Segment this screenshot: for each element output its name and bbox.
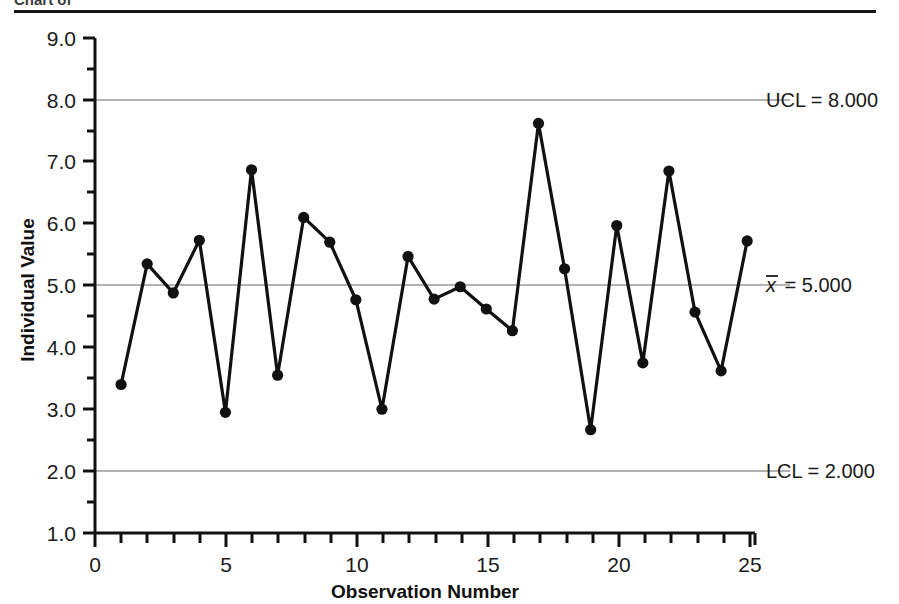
y-tick-label: 4.0	[47, 336, 76, 359]
data-point	[533, 118, 544, 129]
data-point	[611, 220, 622, 231]
data-point	[272, 370, 283, 381]
y-tick-label: 3.0	[47, 398, 76, 421]
data-point	[246, 164, 257, 175]
control-chart: Chart of	[0, 0, 899, 604]
y-tick-label: 2.0	[47, 460, 76, 483]
y-tick-labels: 9.0 8.0 7.0 6.0 5.0 4.0 3.0 2.0 1.0	[47, 27, 76, 545]
data-point	[637, 357, 648, 368]
center-line-label: x = 5.000	[765, 274, 852, 296]
y-tick-label: 1.0	[47, 522, 76, 545]
control-limit-lines	[95, 100, 790, 471]
limit-annotations: UCL = 8.000 x = 5.000 LCL = 2.000	[765, 89, 878, 482]
data-point	[376, 404, 387, 415]
x-tick-label: 20	[607, 553, 630, 576]
data-point	[324, 237, 335, 248]
x-tick-label: 0	[89, 553, 101, 576]
data-point	[663, 165, 674, 176]
data-point	[481, 303, 492, 314]
data-series-line	[121, 123, 747, 429]
ucl-label: UCL = 8.000	[766, 89, 878, 111]
data-point	[350, 294, 361, 305]
data-point	[455, 281, 466, 292]
y-tick-label: 9.0	[47, 27, 76, 50]
data-point	[220, 407, 231, 418]
data-point	[742, 235, 753, 246]
x-tick-label: 15	[476, 553, 499, 576]
data-point	[115, 379, 126, 390]
y-tick-label: 8.0	[47, 89, 76, 112]
xbar-symbol: x	[765, 274, 777, 296]
data-point	[142, 258, 153, 269]
data-point	[585, 424, 596, 435]
data-point	[168, 287, 179, 298]
chart-canvas: 9.0 8.0 7.0 6.0 5.0 4.0 3.0 2.0 1.0 Indi…	[0, 0, 899, 604]
x-tick-labels: 0 5 10 15 20 25	[89, 553, 762, 576]
y-tick-label: 5.0	[47, 274, 76, 297]
center-line-value: 5.000	[802, 274, 852, 296]
data-point	[689, 307, 700, 318]
y-axis-title: Individual Value	[17, 218, 38, 362]
data-series-markers	[115, 118, 752, 435]
y-tick-label: 7.0	[47, 150, 76, 173]
data-point	[298, 212, 309, 223]
y-axis	[83, 38, 95, 533]
x-tick-label: 25	[738, 553, 761, 576]
data-point	[715, 365, 726, 376]
data-point	[402, 251, 413, 262]
center-line-equation: =	[779, 274, 802, 296]
data-point	[194, 235, 205, 246]
data-point	[559, 263, 570, 274]
x-tick-label: 10	[345, 553, 368, 576]
x-axis-title: Observation Number	[331, 581, 520, 602]
x-tick-label: 5	[220, 553, 232, 576]
data-point	[507, 325, 518, 336]
lcl-label: LCL = 2.000	[766, 460, 875, 482]
x-axis	[95, 533, 755, 547]
y-tick-label: 6.0	[47, 212, 76, 235]
data-point	[429, 294, 440, 305]
